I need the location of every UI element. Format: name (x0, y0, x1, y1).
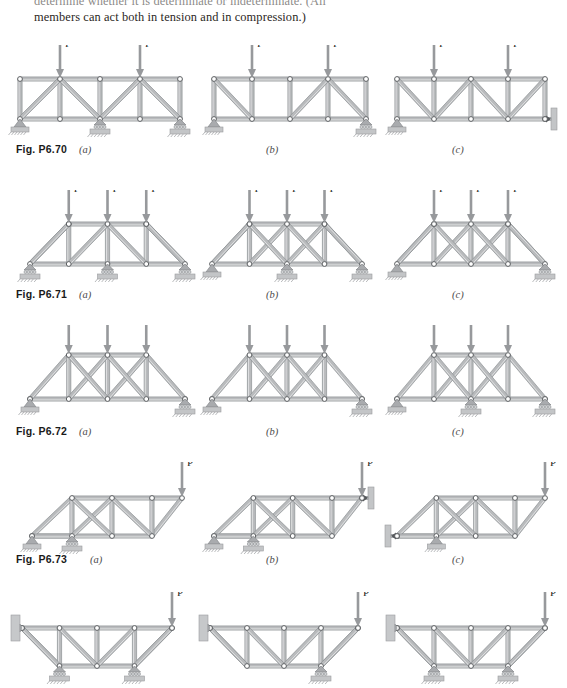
ground-hatch-line (9, 132, 12, 135)
roller-wheel (471, 406, 474, 409)
ground-hatch-line (203, 132, 206, 135)
ground-hatch-line (213, 277, 216, 280)
truss-member (108, 397, 147, 401)
truss-joint (469, 626, 474, 631)
truss-joint (506, 117, 511, 122)
truss-member (133, 627, 173, 668)
ground-hatch-line (34, 279, 37, 282)
truss-joint (469, 262, 474, 267)
truss-member (330, 497, 363, 538)
truss-member (69, 262, 108, 266)
roller-wheel (545, 271, 548, 274)
figure-panel-p6-74-c: P (383, 592, 567, 688)
ground-hatch (498, 676, 518, 681)
wall-support (551, 108, 557, 130)
truss-member (434, 77, 471, 81)
ground-hatch-line (475, 414, 478, 417)
member-highlight (435, 80, 472, 120)
roller-wheel (111, 271, 114, 274)
part-label-p6-70-a: (a) (79, 144, 91, 155)
roller-wheel (502, 673, 505, 676)
load-label: P (367, 462, 373, 468)
roller-wheel (63, 673, 66, 676)
truss-joint (326, 117, 331, 122)
ground-hatch-line (201, 277, 204, 280)
truss-joint (469, 664, 474, 669)
truss-joint (98, 77, 103, 82)
ground-hatch (352, 409, 372, 414)
roller-wheel (69, 543, 72, 546)
roller-wheel (356, 406, 359, 409)
roller-wheel (24, 271, 27, 274)
ground-hatch-line (432, 681, 435, 684)
ground-hatch-line (360, 279, 363, 282)
roller-wheel (177, 126, 180, 129)
ground-hatch-line (354, 134, 357, 137)
ground-hatch-line (425, 549, 428, 552)
truss-joint (434, 496, 439, 501)
truss-member (332, 496, 362, 500)
truss-member (146, 397, 185, 401)
truss-joint (110, 496, 115, 501)
ground-hatch-line (98, 134, 101, 137)
ground-hatch-line (21, 132, 24, 135)
ground-hatch-line (125, 681, 128, 684)
truss-member (250, 262, 288, 266)
truss-joint (364, 77, 369, 82)
roller-wheel (185, 406, 188, 409)
truss-member (471, 262, 508, 266)
truss-diagram-p6-72-c: PPP (383, 325, 567, 433)
load-label: P (550, 592, 556, 598)
ground-hatch-line (105, 279, 108, 282)
ground-hatch-line (203, 549, 206, 552)
ground-hatch-line (176, 414, 179, 417)
member-highlight (285, 629, 322, 667)
roller-wheel (185, 271, 188, 274)
figure-panel-p6-72-c: PPP (383, 325, 567, 433)
wall-support (368, 487, 374, 509)
ground-hatch-line (168, 134, 171, 137)
load-label: P (513, 190, 519, 194)
truss-member (471, 222, 508, 226)
ground-hatch-line (386, 412, 389, 415)
load-label: P (145, 45, 151, 49)
member-highlight (398, 499, 437, 537)
truss-diagram-p6-70-c: PP (383, 45, 567, 153)
truss-member (471, 664, 508, 668)
ground-hatch-line (189, 279, 192, 282)
ground-hatch (424, 676, 444, 681)
ground-hatch-line (356, 279, 359, 282)
wall-support (385, 525, 391, 547)
member-highlight (475, 499, 514, 537)
truss-member (474, 498, 478, 536)
roller-wheel (542, 406, 545, 409)
ground-hatch-line (216, 277, 219, 280)
truss-member (476, 534, 515, 538)
truss-diagram-p6-70-b: PP (200, 45, 406, 153)
ground-hatch-line (50, 681, 53, 684)
roller-wheel (256, 543, 259, 546)
truss-member (328, 117, 366, 121)
truss-member (508, 117, 545, 121)
truss-member (319, 628, 323, 666)
ground-hatch-line (315, 681, 318, 684)
truss-member (432, 627, 472, 668)
truss-member (434, 397, 471, 401)
truss-member (432, 224, 436, 264)
truss-member (434, 262, 471, 266)
ground-hatch-line (549, 279, 552, 282)
truss-joint (95, 626, 100, 631)
roller-wheel (431, 673, 434, 676)
truss-member (252, 77, 290, 81)
ground-hatch-line (209, 132, 212, 135)
truss-member (469, 627, 509, 668)
ground-hatch (98, 274, 118, 279)
ground-hatch-line (215, 132, 218, 135)
truss-member (138, 79, 142, 119)
ground-hatch-line (122, 681, 125, 684)
intro-paragraph: determine whether it is determinate or i… (34, 0, 534, 25)
truss-member (140, 77, 180, 81)
truss-member (58, 79, 62, 119)
ground-hatch-line (440, 549, 443, 552)
roller-wheel (548, 406, 551, 409)
